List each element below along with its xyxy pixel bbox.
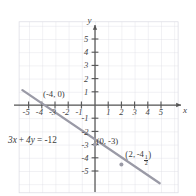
x-tick-label-2: 2: [119, 108, 123, 117]
y-tick-label-2: 2: [84, 75, 88, 84]
equation-constant: -12: [44, 135, 56, 145]
equation-label: 3x+4y=-12: [8, 136, 57, 145]
y-tick-label--5: -5: [81, 167, 88, 176]
x-tick-label-5: 5: [159, 108, 163, 117]
y-tick-label-4: 4: [84, 48, 88, 57]
y-tick-label--3: -3: [81, 141, 88, 150]
x-tick-label--5: -5: [23, 108, 30, 117]
x-tick-label-3: 3: [132, 108, 136, 117]
x-intercept-label: (-4, 0): [43, 90, 65, 99]
point-marker-extra: [119, 162, 123, 166]
y-tick-label-3: 3: [84, 61, 88, 70]
x-tick-label--4: -4: [36, 108, 43, 117]
x-tick-label-4: 4: [146, 108, 150, 117]
x-tick-label--2: -2: [62, 108, 69, 117]
y-tick-label--1: -1: [81, 114, 88, 123]
x-axis-name: x: [183, 106, 187, 115]
y-axis-name: y: [88, 16, 92, 25]
y-tick-label--2: -2: [81, 128, 88, 137]
x-tick-label-1: 1: [106, 108, 110, 117]
extra-point-label: (2,-412): [125, 150, 152, 167]
coordinate-graph-figure: -5 -4 -3 -2 -1 1 2 3 4 5 5 4 3 2 1 -1 -2…: [0, 0, 196, 196]
equation-plus: +: [17, 135, 26, 145]
y-tick-label-1: 1: [84, 88, 88, 97]
y-tick-label--4: -4: [81, 154, 88, 163]
extra-point-whole: -4: [135, 149, 144, 159]
extra-point-open-paren: (: [125, 150, 128, 161]
extra-point-close-paren: ): [149, 150, 152, 161]
x-tick-label--3: -3: [49, 108, 56, 117]
graph-canvas: [0, 0, 196, 196]
y-tick-label-5: 5: [84, 35, 88, 44]
y-intercept-label: (0, -3): [97, 137, 119, 146]
fraction-denominator: 2: [144, 160, 148, 167]
